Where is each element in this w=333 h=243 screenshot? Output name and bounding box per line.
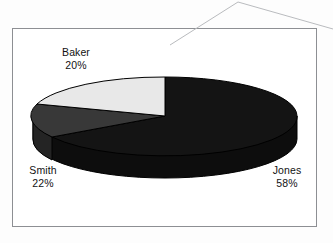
slice-label-jones-name: Jones <box>273 164 302 176</box>
slice-label-baker-value: 20% <box>40 59 112 72</box>
slice-label-smith-value: 22% <box>8 177 78 190</box>
slice-label-baker-name: Baker <box>62 46 90 58</box>
slice-label-jones: Jones 58% <box>252 164 322 189</box>
slice-label-baker: Baker 20% <box>40 46 112 71</box>
slice-label-smith-name: Smith <box>29 164 56 176</box>
slice-label-jones-value: 58% <box>252 177 322 190</box>
slice-label-smith: Smith 22% <box>8 164 78 189</box>
